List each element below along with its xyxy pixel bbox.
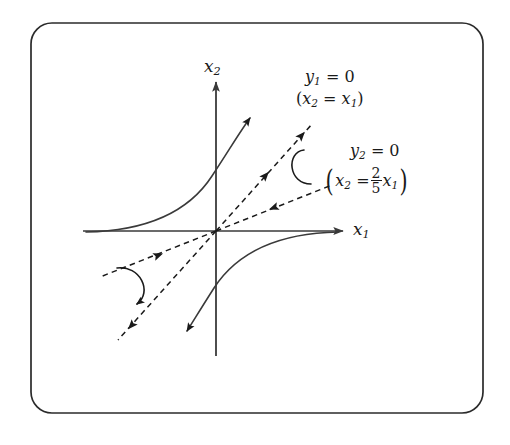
trajectory-upper-curve bbox=[86, 118, 250, 232]
eigenline-1-ray-upper bbox=[216, 123, 313, 231]
nullcline-2-rhs-sub: 1 bbox=[392, 179, 399, 191]
nullcline-2-eq: = 0 bbox=[371, 141, 400, 160]
nullcline-1-rhs: x bbox=[342, 89, 351, 108]
connector-arc-upper bbox=[292, 150, 311, 184]
nullcline-2-annotation: y2 = 0 (x2 =25x1) bbox=[340, 140, 410, 196]
y-axis-label-sub: 2 bbox=[214, 65, 221, 78]
figure-border bbox=[31, 23, 483, 413]
y-axis-label-base: x bbox=[204, 56, 214, 76]
nullcline-2-fraction: 25 bbox=[371, 166, 382, 196]
nullcline-2-var-sub: 2 bbox=[359, 149, 366, 161]
axis-group bbox=[83, 82, 343, 356]
nullcline-2-open-paren: ( bbox=[326, 171, 334, 192]
eigenline-1-ray-lower bbox=[118, 231, 216, 340]
nullcline-1-lhs-sub: 2 bbox=[311, 97, 318, 109]
y-axis-label: x2 bbox=[204, 58, 221, 77]
eigenline-2-ray-upper bbox=[216, 185, 332, 231]
nullcline-1-close-paren: ) bbox=[357, 89, 363, 108]
connector-arc-lower bbox=[117, 268, 144, 304]
nullcline-1-var-sub: 1 bbox=[314, 75, 321, 87]
nullcline-1-line1: y1 = 0 bbox=[296, 66, 364, 88]
nullcline-2-rhs: x bbox=[383, 171, 392, 190]
x-axis-label-sub: 1 bbox=[363, 228, 370, 241]
trajectory-lower-curve bbox=[187, 232, 338, 331]
eigenline-2-arrow-b bbox=[141, 255, 159, 262]
nullcline-1-op: = bbox=[323, 89, 336, 108]
phase-portrait-figure: x2 x1 y1 = 0 (x2 = x1) y2 = 0 (x2 =25x1) bbox=[0, 0, 510, 445]
x-axis-label-base: x bbox=[353, 219, 363, 239]
nullcline-2-lhs-sub: 2 bbox=[344, 179, 351, 191]
nullcline-2-lhs: x bbox=[335, 171, 344, 190]
x-axis-label: x1 bbox=[353, 221, 370, 240]
nullcline-1-var: y bbox=[305, 67, 314, 86]
nullcline-1-line2: (x2 = x1) bbox=[296, 88, 364, 110]
nullcline-2-op: = bbox=[356, 171, 369, 190]
nullcline-2-line2: (x2 =25x1) bbox=[324, 166, 410, 196]
nullcline-2-var: y bbox=[350, 141, 359, 160]
eigenline-2-ray-lower bbox=[100, 231, 216, 277]
nullcline-1-eq: = 0 bbox=[326, 67, 355, 86]
nullcline-1-lhs: x bbox=[302, 89, 311, 108]
nullcline-2-frac-numerator: 2 bbox=[371, 166, 382, 181]
phase-portrait-canvas bbox=[0, 0, 510, 445]
nullcline-2-close-paren: ) bbox=[400, 171, 408, 192]
nullcline-2-frac-denominator: 5 bbox=[371, 180, 382, 196]
nullcline-2-line1: y2 = 0 bbox=[340, 140, 410, 162]
nullcline-1-annotation: y1 = 0 (x2 = x1) bbox=[296, 66, 364, 110]
